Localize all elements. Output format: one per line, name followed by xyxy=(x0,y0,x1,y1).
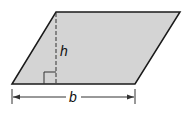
base-label: b xyxy=(69,89,77,105)
parallelogram-diagram: h b xyxy=(0,0,191,117)
parallelogram xyxy=(12,12,180,84)
arrow-left-icon xyxy=(13,95,20,100)
height-label: h xyxy=(60,43,68,59)
arrow-right-icon xyxy=(127,95,134,100)
